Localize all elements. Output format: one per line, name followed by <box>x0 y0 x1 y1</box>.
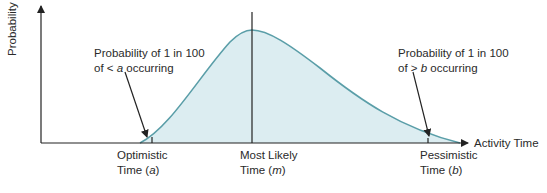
left-annotation-line1: Probability of 1 in 100 <box>94 46 205 61</box>
left-annotation: Probability of 1 in 100 of < a occurring <box>94 46 205 76</box>
left-annotation-line2: of < a occurring <box>94 61 205 76</box>
pessimistic-label: Pessimistic Time (b) <box>420 148 478 178</box>
y-axis-label: Probability <box>6 2 18 56</box>
right-annotation: Probability of 1 in 100 of > b occurring <box>398 46 509 76</box>
right-annotation-arrow <box>413 72 429 136</box>
left-annotation-arrow <box>125 72 147 137</box>
optimistic-label: Optimistic Time (a) <box>117 148 167 178</box>
right-annotation-line1: Probability of 1 in 100 <box>398 46 509 61</box>
most-likely-label: Most Likely Time (m) <box>240 148 298 178</box>
x-axis-label: Activity Time <box>474 136 539 151</box>
right-annotation-line2: of > b occurring <box>398 61 509 76</box>
